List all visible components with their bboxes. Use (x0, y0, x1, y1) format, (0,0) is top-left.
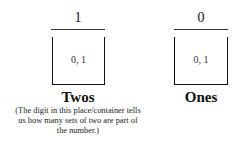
twos-digit-line (51, 29, 105, 30)
twos-possible-values: 0, 1 (53, 54, 104, 65)
twos-label: Twos (38, 89, 118, 105)
twos-container: 0, 1 (52, 37, 105, 85)
twos-digit: 1 (48, 11, 108, 25)
ones-container: 0, 1 (174, 37, 228, 85)
twos-note: (The digit in this place/container tells… (13, 106, 143, 136)
ones-digit: 0 (171, 11, 231, 25)
ones-digit-line (174, 29, 228, 30)
ones-label: Ones (161, 89, 237, 105)
ones-possible-values: 0, 1 (175, 54, 227, 65)
